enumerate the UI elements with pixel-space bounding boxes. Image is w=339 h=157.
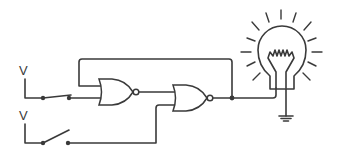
- nor-gate-2-bubble: [207, 95, 213, 101]
- nor-gate-1-body: [99, 79, 133, 105]
- nor-gate-2: [173, 85, 213, 111]
- bulb-filament: [268, 50, 294, 88]
- wire-switch2-to-gate2: [68, 105, 178, 143]
- voltage-source-1: V: [19, 63, 28, 78]
- light-rays: [241, 10, 322, 80]
- switch-2-lever: [43, 130, 69, 143]
- light-bulb: [241, 10, 322, 89]
- switch-1-closed[interactable]: [41, 95, 71, 100]
- voltage-label-1: V: [19, 63, 28, 78]
- junction-dot: [230, 96, 235, 101]
- bulb-glass: [258, 26, 306, 89]
- nor-gate-2-body: [173, 85, 207, 111]
- voltage-source-2: V: [19, 108, 28, 123]
- circuit-diagram: V V: [0, 0, 339, 157]
- wire-gate2-to-bulb: [213, 88, 276, 98]
- switch-1-lever: [43, 95, 71, 98]
- ground-symbol: [279, 89, 293, 121]
- nor-gate-1-bubble: [133, 89, 139, 95]
- wire-source1-to-switch1: [25, 79, 43, 98]
- voltage-label-2: V: [19, 108, 28, 123]
- nor-gate-1: [99, 79, 139, 105]
- wire-source2-to-switch2: [25, 124, 43, 143]
- switch-2-open[interactable]: [41, 130, 70, 145]
